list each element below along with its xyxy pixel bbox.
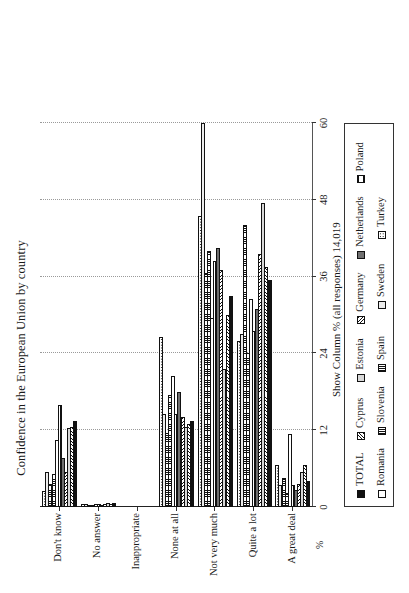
category-label-don-t-know: Don't know (52, 513, 63, 593)
rotated-figure-canvas: Confidence in the European Union by coun… (0, 0, 409, 593)
legend-label-estonia: Estonia (355, 338, 366, 370)
chart-subtitle: Show Column % (all responses) 14,019 (330, 222, 342, 397)
legend-label-total: TOTAL (355, 453, 366, 486)
chart-page: Confidence in the European Union by coun… (0, 0, 409, 593)
plot-area (40, 123, 312, 507)
chart-title: Confidence in the European Union by coun… (14, 123, 29, 593)
value-tick-label-60: 60 (318, 106, 329, 140)
category-label-none-at-all: None at all (169, 513, 180, 593)
value-tick-mark-0 (312, 506, 316, 507)
bar-not-very-much-turkey (198, 216, 202, 507)
legend-swatch-sweden (378, 301, 386, 309)
legend-item-slovenia[interactable]: Slovenia (376, 372, 387, 435)
value-tick-mark-36 (312, 276, 316, 277)
legend-swatch-romania (378, 490, 386, 498)
category-label-inappropriate: Inappropriate (130, 513, 141, 593)
value-tick-mark-60 (312, 122, 316, 123)
category-tick-mark-not-very-much (214, 507, 215, 511)
category-tick-mark-a-great-deal (292, 507, 293, 511)
axis-unit-label: % (314, 541, 325, 549)
category-tick-mark-none-at-all (176, 507, 177, 511)
bar-don-t-know-turkey (42, 491, 46, 507)
bar-no-answer-turkey (81, 504, 85, 507)
category-tick-mark-inappropriate (137, 507, 138, 511)
legend-item-sweden[interactable]: Sweden (376, 239, 387, 309)
legend-row: TOTALCyprusEstoniaGermanyNetherlandsPola… (350, 128, 371, 498)
category-tick-mark-no-answer (98, 507, 99, 511)
legend-label-netherlands: Netherlands (355, 196, 366, 247)
bar-none-at-all-turkey (159, 337, 163, 507)
category-group-none-at-all (159, 123, 193, 507)
legend-swatch-estonia (357, 374, 365, 382)
category-group-no-answer (81, 123, 115, 507)
bar-a-great-deal-turkey (275, 465, 279, 507)
category-label-quite-a-lot: Quite a lot (247, 513, 258, 593)
value-tick-mark-24 (312, 352, 316, 353)
legend-swatch-germany (357, 316, 365, 324)
legend-label-slovenia: Slovenia (376, 386, 387, 423)
legend-swatch-spain (378, 364, 386, 372)
category-group-not-very-much (198, 123, 232, 507)
legend-swatch-cyprus (357, 432, 365, 440)
legend-swatch-total (357, 490, 365, 498)
legend-label-spain: Spain (376, 336, 387, 360)
legend-item-turkey[interactable]: Turkey (376, 157, 387, 239)
legend-label-poland: Poland (355, 142, 366, 171)
legend-swatch-slovenia (378, 427, 386, 435)
category-group-quite-a-lot (237, 123, 271, 507)
legend-item-germany[interactable]: Germany (355, 259, 366, 324)
category-label-a-great-deal: A great deal (286, 513, 297, 593)
legend-label-cyprus: Cyprus (355, 398, 366, 428)
legend-label-romania: Romania (376, 448, 387, 486)
value-tick-label-36: 36 (318, 260, 329, 294)
bar-quite-a-lot-turkey (237, 341, 241, 507)
figure: Confidence in the European Union by coun… (0, 0, 409, 593)
category-label-not-very-much: Not very much (208, 513, 219, 593)
value-tick-label-12: 12 (318, 413, 329, 447)
legend-item-netherlands[interactable]: Netherlands (355, 183, 366, 259)
value-tick-mark-12 (312, 429, 316, 430)
category-group-don-t-know (42, 123, 76, 507)
category-axis-line (312, 123, 313, 507)
legend-label-germany: Germany (355, 273, 366, 312)
legend-item-cyprus[interactable]: Cyprus (355, 382, 366, 440)
legend-label-turkey: Turkey (376, 197, 387, 227)
value-tick-label-0: 0 (318, 490, 329, 524)
category-label-no-answer: No answer (91, 513, 102, 593)
legend-item-spain[interactable]: Spain (376, 309, 387, 372)
legend-swatch-poland (357, 175, 365, 183)
legend-swatch-turkey (378, 231, 386, 239)
legend-row: RomaniaSloveniaSpainSwedenTurkey (371, 128, 392, 498)
legend-item-total[interactable]: TOTAL (355, 440, 366, 498)
legend-item-poland[interactable]: Poland (355, 128, 366, 183)
category-tick-mark-quite-a-lot (253, 507, 254, 511)
legend-item-romania[interactable]: Romania (376, 435, 387, 498)
value-tick-mark-48 (312, 199, 316, 200)
legend-item-estonia[interactable]: Estonia (355, 324, 366, 382)
legend-label-sweden: Sweden (376, 264, 387, 297)
category-group-inappropriate (120, 123, 154, 507)
value-tick-label-48: 48 (318, 183, 329, 217)
legend-swatch-netherlands (357, 251, 365, 259)
legend: TOTALCyprusEstoniaGermanyNetherlandsPola… (344, 123, 394, 507)
value-tick-label-24: 24 (318, 336, 329, 370)
category-tick-mark-don-t-know (59, 507, 60, 511)
category-group-a-great-deal (275, 123, 309, 507)
